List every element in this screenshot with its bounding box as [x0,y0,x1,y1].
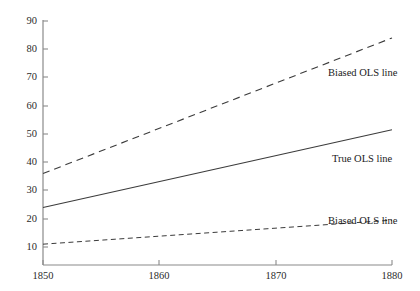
y-tick-label-80: 80 [13,44,37,55]
x-tick-label-1880: 1880 [372,271,412,282]
x-axis-ticks [43,260,392,265]
y-tick-label-60: 60 [13,101,37,112]
x-tick-label-1860: 1860 [139,271,179,282]
y-tick-label-20: 20 [13,214,37,225]
y-tick-label-70: 70 [13,72,37,83]
series-label-biased-upper: Biased OLS line [328,68,397,79]
y-axis-ticks [43,21,48,247]
y-tick-label-90: 90 [13,16,37,27]
series-line-true [43,130,392,208]
x-tick-label-1870: 1870 [256,271,296,282]
y-tick-label-30: 30 [13,185,37,196]
series-label-true: True OLS line [332,154,392,165]
x-tick-label-1850: 1850 [23,271,63,282]
y-tick-label-50: 50 [13,129,37,140]
y-tick-label-10: 10 [13,242,37,253]
y-tick-label-40: 40 [13,157,37,168]
chart-screenshot: 90 80 70 60 50 40 30 20 10 1850 1860 187… [0,0,420,291]
series-label-biased-lower: Biased OLS line [328,216,397,227]
chart-plot-area [0,0,420,291]
